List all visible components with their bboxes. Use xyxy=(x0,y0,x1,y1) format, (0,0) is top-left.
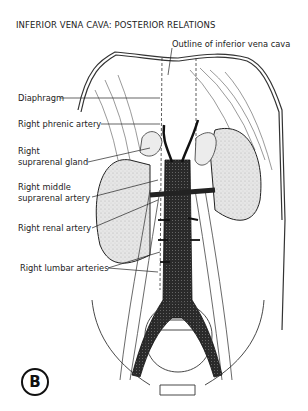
label-outline-ivc: Outline of inferior vena cava xyxy=(172,39,290,49)
label-diaphragm: Diaphragm xyxy=(18,93,64,103)
label-right-phrenic-artery: Right phrenic artery xyxy=(18,119,101,129)
label-right-renal-artery: Right renal artery xyxy=(18,223,91,233)
left-kidney xyxy=(210,128,261,220)
label-right-middle-suprarenal-artery-1: Right middle xyxy=(18,182,71,192)
panel-label-badge: B xyxy=(21,368,49,396)
right-suprarenal-gland xyxy=(140,132,162,156)
label-right-lumbar-arteries: Right lumbar arteries xyxy=(20,263,109,273)
label-right-suprarenal-gland-2: suprarenal gland xyxy=(18,157,88,167)
panel-label: B xyxy=(29,373,40,391)
phrenic-arteries xyxy=(164,120,198,162)
anatomy-illustration xyxy=(0,0,308,411)
right-kidney xyxy=(96,160,150,264)
label-right-middle-suprarenal-artery-2: suprarenal artery xyxy=(18,193,90,203)
label-right-suprarenal-gland-1: Right xyxy=(18,146,40,156)
